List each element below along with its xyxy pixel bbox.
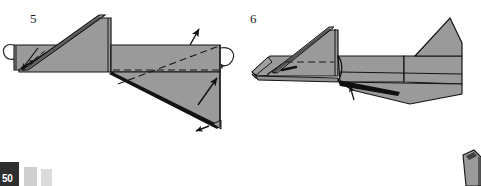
paper6-right-band xyxy=(404,56,462,84)
tertiary-tab xyxy=(41,169,52,186)
secondary-tab xyxy=(24,167,37,186)
step-5-number: 5 xyxy=(30,12,37,25)
origami-diagram-svg xyxy=(0,0,481,186)
step-5-figure xyxy=(3,15,233,131)
paper-upper-band xyxy=(111,45,220,72)
page-number-tab: 50 xyxy=(0,162,19,186)
page-number-label: 50 xyxy=(2,174,13,184)
rotation-arrow-right xyxy=(220,48,234,66)
next-step-partial-figure xyxy=(463,150,481,186)
step-6-number: 6 xyxy=(250,12,257,25)
page-canvas: 5 6 50 xyxy=(0,0,481,186)
fold-arrow-up-right xyxy=(190,29,199,45)
paper6-lower-band xyxy=(256,76,338,82)
paper6-center-band xyxy=(338,56,404,82)
step-6-figure xyxy=(252,18,462,104)
paper6-right-fin xyxy=(415,18,462,56)
fold-arrow-bottom-tip xyxy=(196,126,209,131)
